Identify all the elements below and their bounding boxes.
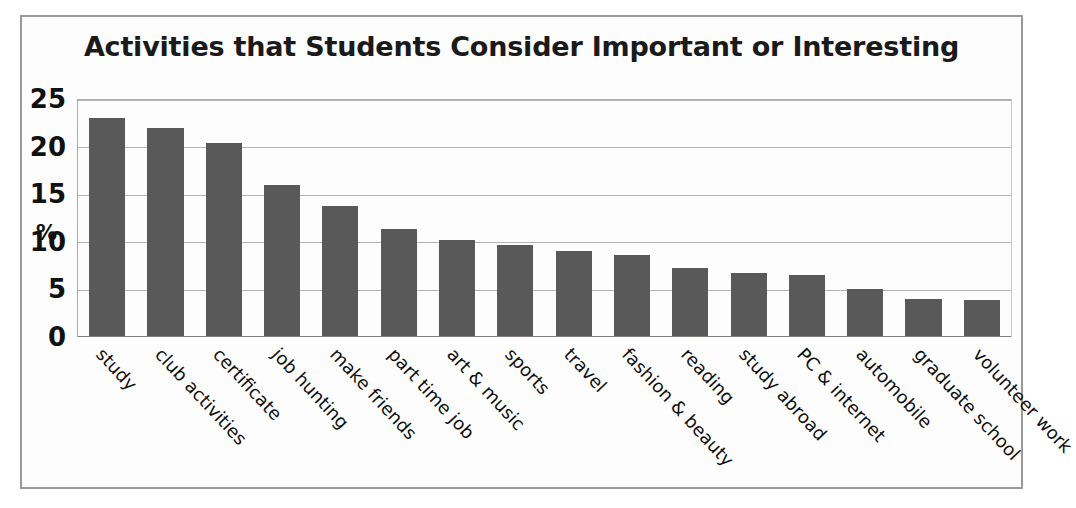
bar-slot xyxy=(253,100,311,337)
bar-slot xyxy=(370,100,428,337)
y-tick-label: 5 xyxy=(48,276,66,302)
bar xyxy=(731,273,767,337)
x-axis-tick-labels: studyclub activitiescertificatejob hunti… xyxy=(77,339,1012,489)
x-tick-slot: fashion & beauty xyxy=(603,339,661,489)
bar xyxy=(556,251,592,337)
bar-slot xyxy=(486,100,544,337)
x-tick-slot: study abroad xyxy=(720,339,778,489)
bar-series xyxy=(78,100,1011,337)
y-tick-label: 0 xyxy=(48,324,66,350)
chart-title: Activities that Students Consider Import… xyxy=(22,31,1021,62)
bar xyxy=(439,240,475,337)
bar xyxy=(322,206,358,337)
bar-slot xyxy=(136,100,194,337)
bar xyxy=(672,268,708,337)
bar xyxy=(264,185,300,337)
x-tick-slot: make friends xyxy=(311,339,369,489)
x-tick-slot: club activities xyxy=(135,339,193,489)
bar-slot xyxy=(836,100,894,337)
x-tick-slot: job hunting xyxy=(252,339,310,489)
y-tick-label: 15 xyxy=(30,181,66,207)
bar xyxy=(789,275,825,337)
x-tick-slot: study xyxy=(77,339,135,489)
y-tick-label: 20 xyxy=(30,134,66,160)
y-tick-label: 25 xyxy=(30,86,66,112)
bar-slot xyxy=(953,100,1011,337)
bar-slot xyxy=(661,100,719,337)
x-tick-slot: certificate xyxy=(194,339,252,489)
bar-slot xyxy=(603,100,661,337)
x-tick-slot: automobile xyxy=(837,339,895,489)
x-tick-slot: art & music xyxy=(428,339,486,489)
x-tick-slot: volunteer work xyxy=(954,339,1012,489)
bar xyxy=(147,128,183,338)
bar-slot xyxy=(195,100,253,337)
x-tick-slot: part time job xyxy=(369,339,427,489)
bar xyxy=(847,289,883,337)
bar xyxy=(206,143,242,337)
bar-slot xyxy=(545,100,603,337)
x-tick-slot: sports xyxy=(486,339,544,489)
x-axis-line xyxy=(78,336,1011,337)
bar xyxy=(964,300,1000,337)
x-tick-slot: travel xyxy=(545,339,603,489)
plot-area xyxy=(77,99,1012,337)
bar-slot xyxy=(778,100,836,337)
bar-slot xyxy=(78,100,136,337)
bar-slot xyxy=(719,100,777,337)
bar xyxy=(905,299,941,337)
x-tick-slot: graduate school xyxy=(895,339,953,489)
x-tick-slot: PC & internet xyxy=(778,339,836,489)
x-tick-label: study xyxy=(93,345,140,394)
bar xyxy=(381,229,417,337)
bar-slot xyxy=(894,100,952,337)
x-tick-slot: reading xyxy=(661,339,719,489)
bar xyxy=(614,255,650,337)
bar xyxy=(497,245,533,337)
bar-slot xyxy=(428,100,486,337)
bar-slot xyxy=(311,100,369,337)
x-tick-label: volunteer work xyxy=(970,345,1075,456)
y-axis-tick-labels: 2520151050 xyxy=(22,99,72,337)
y-tick-label: 10 xyxy=(30,229,66,255)
chart-figure: Activities that Students Consider Import… xyxy=(20,15,1023,489)
bar xyxy=(89,118,125,337)
